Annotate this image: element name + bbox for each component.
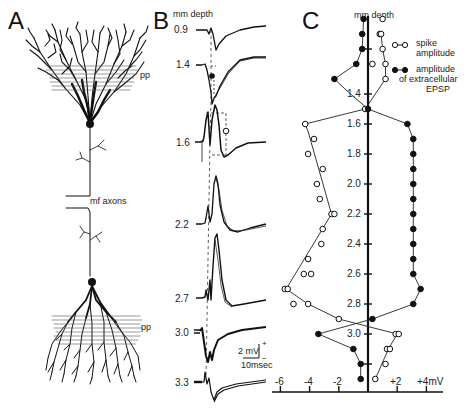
legend-open-circle-icon — [392, 42, 397, 47]
panel-c-legend-symbols — [0, 0, 469, 418]
legend-epsp-line2: of extracellular — [399, 75, 458, 84]
legend-epsp-line1: amplitude — [416, 65, 455, 74]
legend-epsp-line3: EPSP — [426, 85, 450, 94]
legend-spike-line1: spike — [416, 39, 437, 48]
legend-filled-circle-icon — [392, 67, 397, 72]
figure: A — [0, 0, 469, 418]
legend-spike-line2: amplitude — [416, 49, 455, 58]
